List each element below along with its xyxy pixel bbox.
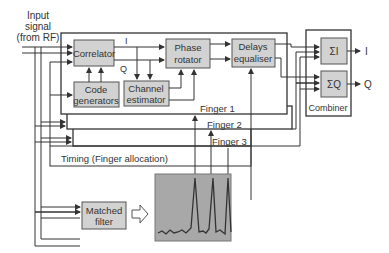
correlator-label: Correlator [73, 48, 115, 59]
svg-text:Combiner: Combiner [308, 103, 347, 113]
finger-1-label: Finger 1 [200, 103, 235, 114]
correlation-plot [155, 174, 231, 241]
svg-text:Q: Q [120, 64, 127, 74]
svg-text:Q: Q [364, 79, 372, 90]
finger-3-label: Finger 3 [212, 136, 247, 147]
svg-text:(from RF): (from RF) [17, 32, 60, 43]
svg-text:Phase: Phase [175, 42, 202, 53]
input-signal-label: Input signal (from RF) [17, 10, 60, 43]
svg-text:Code: Code [85, 84, 108, 95]
timing-label: Timing (Finger allocation) [61, 153, 168, 164]
svg-text:I: I [365, 46, 368, 57]
hollow-arrow-icon [132, 205, 148, 223]
svg-text:generators: generators [73, 95, 119, 106]
svg-text:I: I [125, 36, 128, 46]
svg-text:Channel: Channel [128, 83, 163, 94]
svg-text:Delays: Delays [238, 41, 267, 52]
svg-text:signal: signal [25, 21, 51, 32]
svg-text:equaliser: equaliser [234, 53, 273, 64]
svg-text:filter: filter [95, 216, 113, 227]
svg-text:Input: Input [27, 10, 49, 21]
svg-text:ΣQ: ΣQ [327, 79, 341, 90]
svg-text:estimator: estimator [126, 94, 165, 105]
finger-2-label: Finger 2 [207, 119, 242, 130]
svg-text:ΣI: ΣI [330, 46, 339, 57]
svg-text:rotator: rotator [174, 54, 201, 65]
svg-text:Matched: Matched [86, 205, 122, 216]
